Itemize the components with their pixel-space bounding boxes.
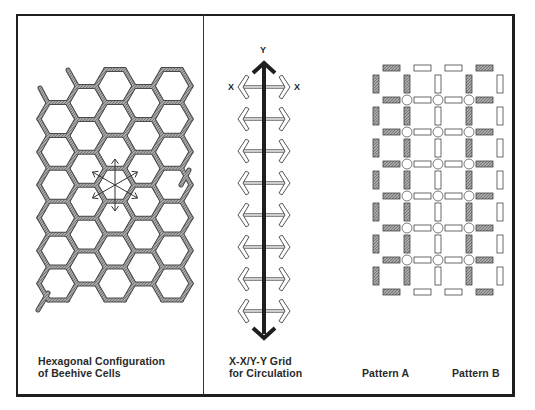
circulation-grid-arrows xyxy=(238,63,290,338)
x-axis-label-left: X xyxy=(228,82,234,92)
pattern-grid xyxy=(373,65,503,295)
pattern-b-label: Pattern B xyxy=(452,367,500,379)
pattern-a-label: Pattern A xyxy=(362,367,409,379)
hexagon-caption-line2: of Beehive Cells xyxy=(38,367,165,379)
radial-arrows-icon xyxy=(92,159,137,211)
y-axis-label: Y xyxy=(260,45,266,55)
circulation-caption-line2: for Circulation xyxy=(229,367,302,379)
diagram-canvas xyxy=(0,0,535,410)
circulation-caption: X-X/Y-Y Grid for Circulation xyxy=(229,355,302,379)
x-axis-label-right: X xyxy=(294,82,300,92)
hexagon-caption-line1: Hexagonal Configuration xyxy=(38,355,165,367)
hexagon-caption: Hexagonal Configuration of Beehive Cells xyxy=(38,355,165,379)
circulation-caption-line1: X-X/Y-Y Grid xyxy=(229,355,302,367)
